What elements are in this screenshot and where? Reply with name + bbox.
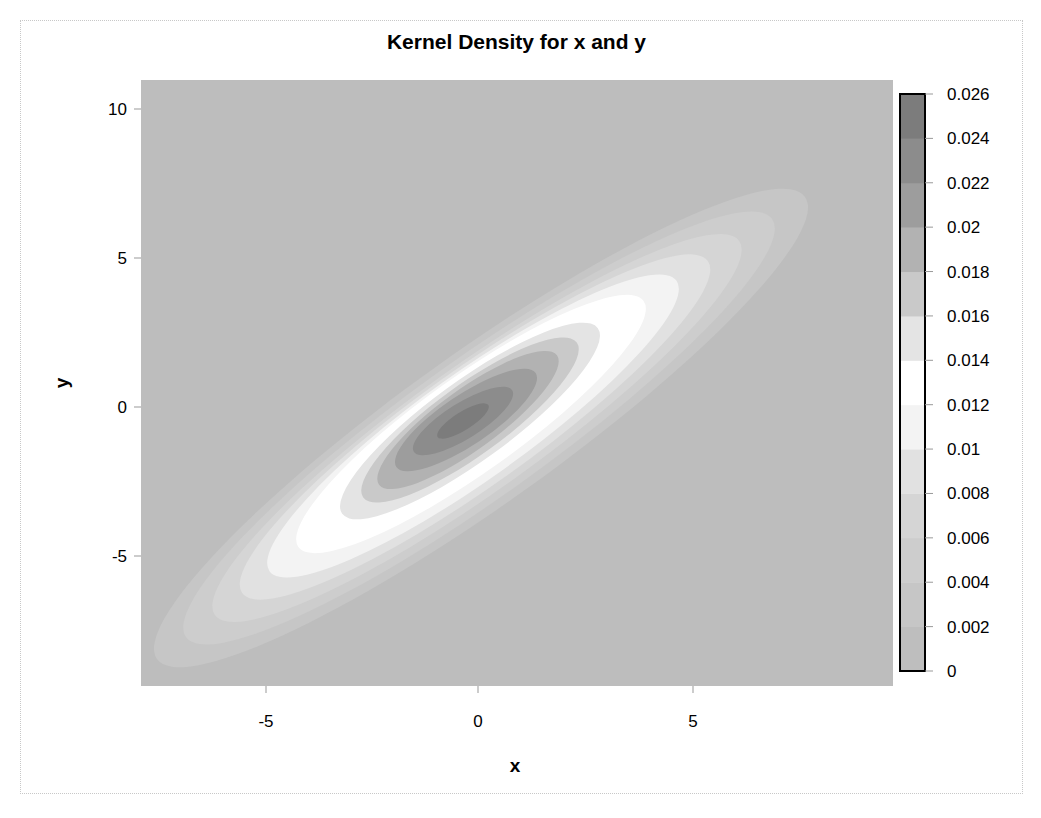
colorbar-band <box>900 94 925 139</box>
y-tick-label: 5 <box>118 249 127 268</box>
colorbar-band <box>900 627 925 672</box>
colorbar-ticks: 0.0260.0240.0220.020.0180.0160.0140.0120… <box>925 85 990 681</box>
colorbar-band <box>900 227 925 272</box>
colorbar-tick-label: 0.016 <box>947 307 990 326</box>
colorbar-band <box>900 538 925 583</box>
colorbar-band <box>900 316 925 361</box>
colorbar-tick-label: 0.014 <box>947 351 990 370</box>
colorbar-band <box>900 272 925 317</box>
colorbar-tick-label: 0.02 <box>947 218 980 237</box>
y-axis: 10 5 0 -5 y <box>51 100 141 566</box>
colorbar-tick-label: 0.006 <box>947 529 990 548</box>
colorbar-band <box>900 138 925 183</box>
x-tick-label: 5 <box>688 712 697 731</box>
colorbar-tick-label: 0.026 <box>947 85 990 104</box>
y-tick-label: 10 <box>108 100 127 119</box>
colorbar-band <box>900 360 925 405</box>
y-tick-label: 0 <box>118 398 127 417</box>
colorbar-tick-label: 0.01 <box>947 440 980 459</box>
x-tick-label: -5 <box>258 712 273 731</box>
colorbar-tick-label: 0.018 <box>947 263 990 282</box>
colorbar-tick-label: 0.008 <box>947 484 990 503</box>
plot-area <box>113 80 893 721</box>
y-tick-label: -5 <box>112 547 127 566</box>
colorbar: 0.0260.0240.0220.020.0180.0160.0140.0120… <box>900 85 990 681</box>
colorbar-band <box>900 183 925 228</box>
chart-svg: 10 5 0 -5 y -5 0 5 x 0.0260.0240.0220.02… <box>0 0 1041 818</box>
x-axis-label: x <box>510 755 521 776</box>
colorbar-tick-label: 0.002 <box>947 618 990 637</box>
colorbar-tick-label: 0.024 <box>947 129 990 148</box>
x-tick-label: 0 <box>473 712 482 731</box>
colorbar-tick-label: 0.012 <box>947 396 990 415</box>
colorbar-tick-label: 0 <box>947 662 956 681</box>
colorbar-tick-label: 0.022 <box>947 174 990 193</box>
colorbar-band <box>900 582 925 627</box>
colorbar-band <box>900 405 925 450</box>
colorbar-band <box>900 493 925 538</box>
y-axis-label: y <box>51 377 72 388</box>
grain-overlay <box>141 80 893 686</box>
colorbar-bands <box>900 94 925 672</box>
x-axis: -5 0 5 x <box>258 686 697 776</box>
colorbar-tick-label: 0.004 <box>947 573 990 592</box>
colorbar-band <box>900 449 925 494</box>
